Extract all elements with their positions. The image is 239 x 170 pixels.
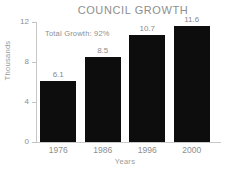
x-axis-line (36, 142, 221, 143)
y-axis-tick-label: 8 (25, 57, 29, 67)
bar-group: 6.1 (40, 22, 76, 142)
bar[interactable] (129, 35, 165, 142)
y-axis-tick-label: 0 (25, 137, 29, 147)
bar-value-label: 11.6 (166, 15, 218, 24)
y-axis-tick-label: 12 (20, 17, 29, 27)
bar[interactable] (40, 81, 76, 142)
bar-chart: COUNCIL GROWTH Thousands Years 04812 6.1… (0, 0, 239, 170)
y-axis-tick-label: 4 (25, 97, 29, 107)
y-axis-tick: 4 (0, 97, 36, 107)
bar[interactable] (85, 57, 121, 142)
plot-area: 6.18.510.711.6 (36, 22, 214, 142)
y-axis-tick: 0 (0, 137, 36, 147)
x-axis-category-label: 1996 (125, 145, 170, 155)
x-axis-category-label: 1986 (81, 145, 126, 155)
y-axis-tick: 8 (0, 57, 36, 67)
y-axis-tick: 12 (0, 17, 36, 27)
bar-group: 8.5 (85, 22, 121, 142)
x-axis-category-label: 2000 (170, 145, 215, 155)
bar-value-label: 8.5 (77, 46, 129, 55)
x-axis-category-label: 1976 (36, 145, 81, 155)
y-axis-tick-mark (32, 142, 36, 143)
bar[interactable] (174, 26, 210, 142)
bar-group: 10.7 (129, 22, 165, 142)
bar-value-label: 6.1 (32, 70, 84, 79)
total-growth-annotation: Total Growth: 92% (45, 29, 110, 38)
bar-group: 11.6 (174, 22, 210, 142)
bar-value-label: 10.7 (121, 24, 173, 33)
x-axis-title: Years (36, 157, 214, 166)
